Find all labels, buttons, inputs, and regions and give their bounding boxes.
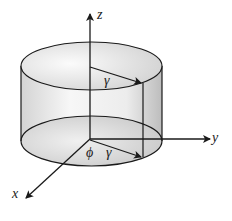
- cylinder-diagram: z y x γ ϕ γ: [0, 0, 232, 221]
- y-axis-label: y: [212, 131, 218, 145]
- z-axis-label: z: [97, 8, 102, 22]
- bottom-radius-label: γ: [106, 146, 112, 160]
- x-axis-label: x: [12, 187, 18, 201]
- diagram-canvas: [0, 0, 232, 221]
- top-radius-label: γ: [104, 74, 110, 88]
- angle-label: ϕ: [86, 146, 93, 160]
